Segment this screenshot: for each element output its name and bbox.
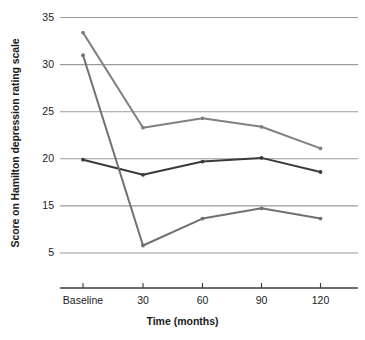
data-series-group xyxy=(81,31,322,248)
data-point-marker xyxy=(81,158,85,162)
data-point-marker xyxy=(201,116,205,120)
data-point-marker xyxy=(141,244,145,248)
data-point-marker xyxy=(81,53,85,57)
chart-container: Score on Hamilton depression rating scal… xyxy=(0,0,365,340)
data-point-marker xyxy=(319,170,323,174)
data-point-marker xyxy=(260,206,264,210)
data-point-marker xyxy=(201,160,205,164)
data-point-marker xyxy=(260,125,264,129)
x-axis xyxy=(60,283,358,288)
series-line xyxy=(83,33,321,149)
plot-area xyxy=(0,0,365,340)
data-point-marker xyxy=(319,147,323,151)
data-point-marker xyxy=(141,126,145,130)
data-point-marker xyxy=(260,156,264,160)
data-point-marker xyxy=(81,31,85,35)
data-point-marker xyxy=(319,217,323,221)
x-axis-title: Time (months) xyxy=(0,315,365,327)
data-point-marker xyxy=(201,217,205,221)
data-point-marker xyxy=(141,173,145,177)
